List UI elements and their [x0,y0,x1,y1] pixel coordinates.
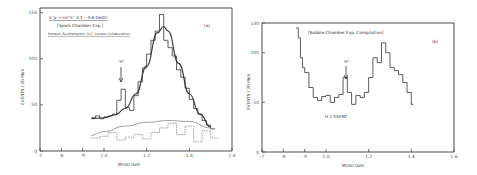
x-tick-label: ·9 [303,154,307,159]
experiment-label: [Spark Chamber Exp.] [57,23,104,28]
arrow-icon [119,67,123,82]
chart-panel-b: 050100130 ·7·8·91.01.21.41.6 [Bubble Cha… [246,21,458,169]
y-tick-label: 50 [31,102,37,107]
y-axis-label-a: EVENTS / 20 MeV [20,69,25,105]
histogram-line [91,123,219,141]
panel-label-a: (a) [204,23,210,28]
x-tick-label: ·8 [281,154,285,159]
chart-panel-a: 050100150 ·7·8·91.01.21.41.6 π⁻p → nπ⁺π⁻… [20,8,236,167]
x-tick-label: ·7 [260,154,264,159]
figure: 050100150 ·7·8·91.01.21.41.6 π⁻p → nπ⁺π⁻… [0,0,477,175]
plot-frame-a [40,8,232,151]
event-scale-note: H 1 EVENT [325,114,348,119]
y-axis-label-b: EVENTS / 20 MeV [246,74,251,110]
s-star-annotation-a: S* [119,59,124,64]
histogram-line [296,28,413,104]
x-tick-label: 1.0 [100,153,107,158]
reaction-title: π⁻p → nπ⁺π⁻ 3.1 – 3.6 GeV/c [49,15,109,20]
series-b [296,28,413,104]
s-star-annotation-b: S* [344,59,349,64]
x-tick-label: ·9 [81,153,85,158]
plot-frame-b [262,23,454,152]
y-tick-label: 50 [253,100,259,105]
y-axis-a: 050100150 [28,10,43,153]
x-tick-label: ·7 [38,153,42,158]
arrow-icon [344,66,348,79]
x-tick-label: 1.2 [143,153,150,158]
panel-label-b: (b) [432,39,438,44]
y-axis-b: 050100130 [250,21,265,155]
x-axis-label-a: M(ππ) GeV [118,162,140,167]
y-tick-label: 100 [250,50,259,55]
y-tick-label: 150 [28,10,37,15]
y-tick-label: 0 [256,150,259,155]
x-tick-label: 1.4 [186,153,193,158]
x-tick-label: 1.2 [365,154,372,159]
x-tick-label: 1.4 [408,154,415,159]
collaboration-label: Harwell, Southampton, U.C. London Collab… [48,32,130,36]
y-tick-label: 130 [250,21,259,26]
experiment-label-b: [Bubble Chamber Exp. Compilation] [308,30,384,35]
x-axis-a: ·7·8·91.01.21.41.6 [38,148,236,158]
x-tick-label: 1.6 [228,153,235,158]
x-axis-b: ·7·8·91.01.21.41.6 [260,149,458,159]
y-tick-label: 0 [34,149,37,154]
x-tick-label: ·8 [59,153,63,158]
x-tick-label: 1.0 [322,154,329,159]
x-tick-label: 1.6 [450,154,457,159]
y-tick-label: 100 [28,56,37,61]
x-axis-label-b: M(ππ) GeV [342,163,364,168]
